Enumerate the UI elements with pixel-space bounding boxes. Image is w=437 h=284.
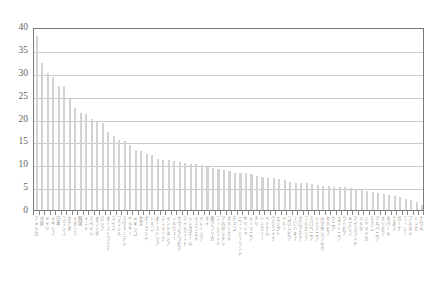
y-axis: 4035302520151050 (0, 0, 31, 284)
x-tick (292, 211, 293, 215)
bar (295, 183, 297, 210)
bar (245, 173, 247, 210)
x-tick (50, 211, 51, 215)
y-tick-label: 25 (19, 92, 29, 102)
bar (405, 199, 407, 210)
bar (322, 186, 324, 210)
bar (278, 179, 280, 210)
x-tick (55, 211, 56, 215)
y-tick-label: 10 (19, 161, 29, 171)
bar (201, 165, 203, 210)
bar (366, 191, 368, 210)
x-tick (94, 211, 95, 215)
x-tick (127, 211, 128, 215)
y-tick-label: 15 (19, 138, 29, 148)
bar (173, 161, 175, 210)
bar (372, 192, 374, 210)
bar (344, 187, 346, 210)
x-tick (66, 211, 67, 215)
x-tick (385, 211, 386, 215)
bar (124, 141, 126, 210)
x-tick (83, 211, 84, 215)
bar (355, 189, 357, 210)
x-tick (352, 211, 353, 215)
x-tick (308, 211, 309, 215)
x-tick (110, 211, 111, 215)
x-tick (380, 211, 381, 215)
bar (74, 108, 76, 210)
x-tick (336, 211, 337, 215)
x-tick (275, 211, 276, 215)
x-tick (396, 211, 397, 215)
x-tick (215, 211, 216, 215)
bar (311, 184, 313, 210)
x-tick (88, 211, 89, 215)
x-tick (423, 211, 424, 215)
bar (47, 73, 49, 210)
bar (394, 196, 396, 210)
x-axis-ticks (33, 211, 424, 215)
bar (339, 187, 341, 210)
x-tick (160, 211, 161, 215)
bar (223, 170, 225, 210)
x-tick (33, 211, 34, 215)
x-tick (220, 211, 221, 215)
y-tick-label: 5 (23, 183, 28, 193)
bar (80, 113, 82, 210)
bar (228, 171, 230, 210)
x-tick (330, 211, 331, 215)
bar (289, 182, 291, 210)
x-tick (149, 211, 150, 215)
x-tick (413, 211, 414, 215)
x-tick (193, 211, 194, 215)
bar (399, 197, 401, 210)
x-tick (314, 211, 315, 215)
x-tick (281, 211, 282, 215)
x-tick (363, 211, 364, 215)
x-tick (132, 211, 133, 215)
x-tick (77, 211, 78, 215)
bar (129, 145, 131, 210)
x-tick (209, 211, 210, 215)
x-tick (341, 211, 342, 215)
bar (416, 202, 418, 210)
bar (361, 190, 363, 210)
x-tick (99, 211, 100, 215)
bar (36, 36, 38, 210)
bar (102, 123, 104, 210)
x-tick (303, 211, 304, 215)
x-tick (391, 211, 392, 215)
bar (317, 185, 319, 210)
bar (239, 173, 241, 210)
x-tick (39, 211, 40, 215)
x-tick (259, 211, 260, 215)
bar (140, 151, 142, 210)
bar (113, 136, 115, 210)
bar (267, 178, 269, 210)
bar (52, 77, 54, 210)
bar (250, 174, 252, 210)
x-tick (198, 211, 199, 215)
bar (41, 63, 43, 210)
bar (273, 178, 275, 210)
bar (256, 176, 258, 210)
y-tick-label: 35 (19, 46, 29, 56)
x-tick (138, 211, 139, 215)
bar (421, 205, 423, 210)
y-tick-label: 0 (23, 206, 28, 216)
bar (69, 99, 71, 210)
x-tick (44, 211, 45, 215)
bar (151, 155, 153, 210)
x-tick (105, 211, 106, 215)
x-tick (297, 211, 298, 215)
x-tick (242, 211, 243, 215)
x-tick (204, 211, 205, 215)
x-tick (325, 211, 326, 215)
plot-area (33, 28, 424, 211)
x-tick (264, 211, 265, 215)
bar (190, 164, 192, 210)
bar (377, 193, 379, 210)
x-tick (116, 211, 117, 215)
bar (162, 160, 164, 210)
y-tick-label: 20 (19, 115, 29, 125)
